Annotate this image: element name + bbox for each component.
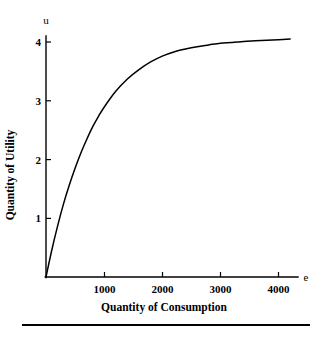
- figure-container: 4 3 2 1 1000 2000 3000 4000 u e Quantity…: [0, 0, 327, 340]
- x-tick-label-4000: 4000: [268, 283, 291, 295]
- x-axis-title: Quantity of Consumption: [101, 301, 227, 314]
- x-tick-label-3000: 3000: [210, 283, 233, 295]
- x-tick-label-1000: 1000: [94, 283, 117, 295]
- y-tick-label-4: 4: [36, 36, 42, 48]
- x-axis-variable-label: e: [304, 271, 309, 283]
- y-tick-label-3: 3: [36, 95, 42, 107]
- x-tick-label-2000: 2000: [152, 283, 175, 295]
- utility-curve-line: [46, 39, 290, 277]
- y-axis-title: Quantity of Utility: [4, 129, 17, 220]
- utility-curve-chart: 4 3 2 1 1000 2000 3000 4000 u e Quantity…: [0, 0, 327, 340]
- y-tick-label-2: 2: [36, 154, 42, 166]
- y-tick-label-1: 1: [36, 212, 42, 224]
- y-axis-variable-label: u: [43, 14, 49, 26]
